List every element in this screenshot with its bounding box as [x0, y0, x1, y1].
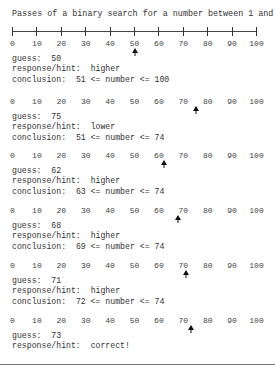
pass-response-line: response/hint: higher — [12, 286, 164, 296]
axis-tick — [158, 27, 159, 36]
axis-tick-label: 80 — [203, 97, 213, 106]
axis-tick-label: 50 — [130, 206, 140, 215]
axis-tick-label: 50 — [130, 151, 140, 160]
axis-tick-label: 90 — [227, 206, 237, 215]
guess-arrow-stem — [178, 220, 179, 223]
guess-label: guess: — [12, 112, 41, 121]
axis-tick-label: 0 — [10, 39, 15, 48]
axis-tick — [256, 27, 257, 36]
axis-tick-label: 70 — [178, 206, 188, 215]
axis-tick-label: 30 — [81, 206, 91, 215]
axis-tick-label: 90 — [227, 261, 237, 270]
conclusion-label: conclusion: — [12, 75, 66, 84]
pass-info: guess: 73response/hint: correct! — [12, 331, 130, 352]
conclusion-value: 72 <= number <= 74 — [76, 297, 164, 306]
conclusion-value: 51 <= number <= 74 — [76, 133, 164, 142]
axis-tick — [61, 27, 62, 36]
axis-tick — [134, 27, 135, 36]
axis-tick-label: 80 — [203, 316, 213, 325]
axis-tick-label: 100 — [249, 39, 263, 48]
pass-response-line: response/hint: correct! — [12, 341, 130, 351]
guess-value: 75 — [51, 112, 61, 121]
guess-label: guess: — [12, 221, 41, 230]
axis-tick-label: 80 — [203, 206, 213, 215]
axis-tick-label: 90 — [227, 97, 237, 106]
axis-tick — [36, 27, 37, 36]
axis-tick-label: 40 — [105, 316, 115, 325]
pass-info: guess: 62response/hint: higherconclusion… — [12, 166, 164, 197]
response-label: response/hint: — [12, 64, 81, 73]
axis-tick-label: 20 — [56, 316, 66, 325]
pass-response-line: response/hint: lower — [12, 122, 164, 132]
axis-tick-label: 0 — [10, 316, 15, 325]
response-value: higher — [91, 286, 120, 295]
pass-guess-line: guess: 73 — [12, 331, 130, 341]
axis-tick-label: 40 — [105, 39, 115, 48]
axis-tick-label: 100 — [249, 206, 263, 215]
pass-info: guess: 75response/hint: lowerconclusion:… — [12, 112, 164, 143]
axis-tick-label: 50 — [130, 261, 140, 270]
response-label: response/hint: — [12, 176, 81, 185]
axis-tick-label: 40 — [105, 151, 115, 160]
axis-tick-label: 10 — [32, 151, 42, 160]
axis-tick-label: 70 — [178, 316, 188, 325]
axis-tick-label: 20 — [56, 206, 66, 215]
axis-tick-label: 70 — [178, 151, 188, 160]
guess-value: 73 — [51, 331, 61, 340]
guess-value: 68 — [51, 221, 61, 230]
conclusion-value: 63 <= number <= 74 — [76, 187, 164, 196]
axis-tick-label: 40 — [105, 97, 115, 106]
conclusion-label: conclusion: — [12, 297, 66, 306]
guess-value: 62 — [51, 166, 61, 175]
axis-tick-label: 30 — [81, 151, 91, 160]
axis-tick-label: 80 — [203, 39, 213, 48]
guess-value: 50 — [51, 54, 61, 63]
axis-tick-label: 60 — [154, 39, 164, 48]
guess-arrow-stem — [190, 330, 191, 333]
guess-label: guess: — [12, 331, 41, 340]
axis-tick — [85, 27, 86, 36]
pass-conclusion-line: conclusion: 69 <= number <= 74 — [12, 242, 164, 252]
pass-guess-line: guess: 68 — [12, 221, 164, 231]
conclusion-label: conclusion: — [12, 187, 66, 196]
response-label: response/hint: — [12, 341, 81, 350]
axis-tick-label: 70 — [178, 261, 188, 270]
axis-tick-label: 50 — [130, 39, 140, 48]
pass-conclusion-line: conclusion: 51 <= number <= 100 — [12, 75, 169, 85]
axis-tick — [12, 27, 13, 36]
guess-arrow-stem — [185, 275, 186, 278]
conclusion-label: conclusion: — [12, 242, 66, 251]
pass-response-line: response/hint: higher — [12, 64, 169, 74]
axis-tick-label: 10 — [32, 261, 42, 270]
axis-tick-label: 0 — [10, 97, 15, 106]
axis-tick-label: 20 — [56, 97, 66, 106]
response-value: higher — [91, 176, 120, 185]
axis-tick-label: 70 — [178, 39, 188, 48]
diagram-title: Passes of a binary search for a number b… — [12, 9, 275, 19]
guess-label: guess: — [12, 276, 41, 285]
axis-tick-label: 30 — [81, 316, 91, 325]
pass-guess-line: guess: 71 — [12, 276, 164, 286]
pass-info: guess: 71response/hint: higherconclusion… — [12, 276, 164, 307]
axis-tick-label: 50 — [130, 316, 140, 325]
axis-tick-label: 80 — [203, 151, 213, 160]
axis-tick-label: 30 — [81, 39, 91, 48]
axis-tick-label: 20 — [56, 39, 66, 48]
response-label: response/hint: — [12, 286, 81, 295]
axis-tick-label: 60 — [154, 316, 164, 325]
response-label: response/hint: — [12, 122, 81, 131]
pass-guess-line: guess: 50 — [12, 54, 169, 64]
axis-tick-label: 50 — [130, 97, 140, 106]
axis-tick-label: 100 — [249, 261, 263, 270]
axis-tick-label: 90 — [227, 151, 237, 160]
conclusion-value: 69 <= number <= 74 — [76, 242, 164, 251]
pass-info: guess: 50response/hint: higherconclusion… — [12, 54, 169, 85]
axis-tick-label: 0 — [10, 206, 15, 215]
response-value: higher — [91, 231, 120, 240]
axis-tick-label: 10 — [32, 316, 42, 325]
response-value: higher — [91, 64, 120, 73]
pass-conclusion-line: conclusion: 72 <= number <= 74 — [12, 297, 164, 307]
pass-guess-line: guess: 75 — [12, 112, 164, 122]
response-label: response/hint: — [12, 231, 81, 240]
axis-tick — [110, 27, 111, 36]
